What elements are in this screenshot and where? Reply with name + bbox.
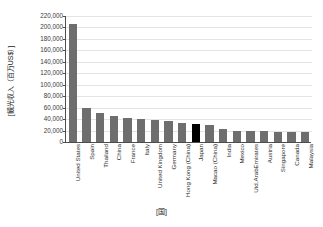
- bar: [96, 113, 104, 142]
- x-axis-title: [国]: [0, 206, 323, 216]
- x-axis-tick-label: China: [115, 144, 122, 160]
- y-axis-tick-label: 20,000: [44, 128, 63, 134]
- x-axis-tick-label: Mexico: [238, 144, 245, 164]
- bar: [219, 129, 227, 142]
- x-axis-tick-label: United Kingdom: [156, 144, 163, 188]
- bar: [301, 132, 309, 142]
- x-axis-tick-label: France: [129, 144, 136, 163]
- y-axis-tick-label: 140,000: [40, 59, 63, 65]
- x-axis-tick-label: Utd.ArabEmirates: [252, 144, 259, 193]
- bar: [69, 24, 77, 142]
- y-axis-tick: [63, 142, 66, 143]
- x-axis-tick-label: Thailand: [102, 144, 109, 168]
- bar: [151, 120, 159, 142]
- bar: [192, 124, 200, 142]
- bar: [287, 132, 295, 142]
- y-axis-tick-label: 40,000: [44, 116, 63, 122]
- y-axis-title: [観光収入（百万US$）]: [2, 18, 18, 144]
- x-axis-tick-label: Canada: [293, 144, 300, 166]
- x-axis-tick-label: India: [225, 144, 232, 157]
- y-axis-tick-label: 80,000: [44, 93, 63, 99]
- x-axis-tick-label: Austria: [266, 144, 273, 163]
- x-axis-tick-label: United States: [74, 144, 81, 181]
- y-axis-tick-label: 220,000: [40, 13, 63, 19]
- bar: [164, 121, 172, 142]
- bar: [233, 131, 241, 142]
- y-axis-tick-label: 60,000: [44, 105, 63, 111]
- bar: [178, 123, 186, 142]
- plot-area: [65, 16, 311, 143]
- y-axis-tick-label: 180,000: [40, 36, 63, 42]
- x-axis-tick-label: Germany: [170, 144, 177, 169]
- bar: [246, 131, 254, 142]
- y-axis-tick-labels: 220,000200,000180,000160,000140,000120,0…: [20, 16, 63, 143]
- x-axis-tick-label: Malaysia: [307, 144, 314, 168]
- x-axis-tick-label: Singapore: [279, 144, 286, 172]
- y-axis-tick-label: 160,000: [40, 47, 63, 53]
- bar: [274, 132, 282, 142]
- bar: [260, 131, 268, 142]
- x-axis-tick-labels: United StatesSpainThailandChinaFranceIta…: [65, 144, 311, 204]
- bar: [205, 125, 213, 142]
- y-axis-tick-label: 120,000: [40, 70, 63, 76]
- y-axis-tick-label: 100,000: [40, 82, 63, 88]
- y-axis-tick-label: 200,000: [40, 24, 63, 30]
- x-axis-tick-label: Japan: [197, 144, 204, 161]
- x-axis-tick-label: Hong Kong (China): [184, 144, 191, 197]
- x-axis-tick-label: Italy: [143, 144, 150, 155]
- tourism-revenue-bar-chart: [観光収入（百万US$）] 220,000200,000180,000160,0…: [0, 0, 323, 227]
- bar: [110, 116, 118, 142]
- x-axis-tick-label: Macao (China): [211, 144, 218, 185]
- bar-series: [66, 16, 312, 142]
- y-axis-title-text: [観光収入（百万US$）]: [5, 46, 15, 117]
- bar: [137, 119, 145, 142]
- bar: [82, 108, 90, 142]
- bar: [123, 118, 131, 142]
- x-axis-tick-label: Spain: [88, 144, 95, 160]
